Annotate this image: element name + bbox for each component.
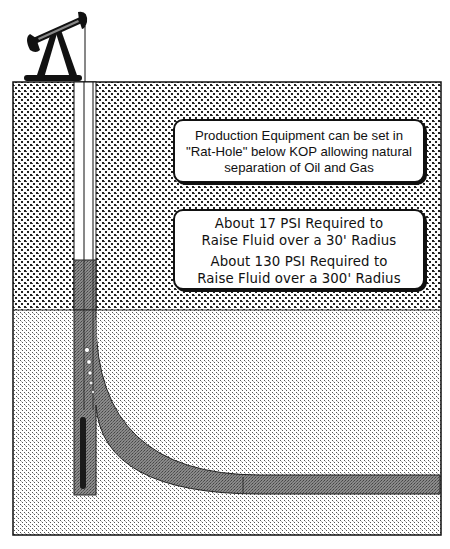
callout-2-line-2: Raise Fluid over a 30' Radius [175, 233, 423, 250]
callout-1-line-1: Production Equipment can be set in [175, 128, 423, 144]
callout-rat-hole-note: Production Equipment can be set in "Rat-… [173, 119, 425, 183]
pumpjack-icon [24, 12, 87, 82]
callout-1-line-2: "Rat-Hole" below KOP allowing natural [175, 144, 423, 160]
callout-2-line-1: About 17 PSI Required to [175, 216, 423, 233]
callout-2-line-4: Raise Fluid over a 300' Radius [175, 271, 423, 288]
production-tubing [80, 417, 86, 489]
callout-pressure-note: About 17 PSI Required to Raise Fluid ove… [173, 209, 425, 290]
callout-1-line-3: separation of Oil and Gas [175, 160, 423, 176]
callout-2-line-3: About 130 PSI Required to [175, 254, 423, 271]
